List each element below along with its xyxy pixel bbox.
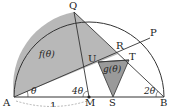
label-P: P bbox=[150, 27, 157, 38]
label-f-theta: f(θ) bbox=[38, 49, 55, 59]
label-B: B bbox=[160, 97, 167, 107]
label-length-AM: 1 bbox=[50, 100, 56, 107]
label-S: S bbox=[109, 97, 116, 107]
angle-arc-A bbox=[27, 91, 28, 97]
region-f-shaded bbox=[13, 12, 118, 97]
geometry-diagram: A B M S Q P R T U f(θ) g(θ) θ 4θ 2θ 1 bbox=[0, 0, 175, 107]
label-U: U bbox=[88, 53, 96, 64]
label-angle-A: θ bbox=[31, 86, 37, 96]
label-T: T bbox=[129, 51, 136, 62]
angle-arc-B bbox=[156, 91, 158, 97]
label-g-theta: g(θ) bbox=[103, 64, 122, 74]
label-M: M bbox=[85, 97, 95, 107]
label-angle-M: 4θ bbox=[71, 86, 84, 96]
label-angle-B: 2θ bbox=[143, 86, 156, 96]
label-Q: Q bbox=[69, 0, 77, 11]
label-A: A bbox=[2, 97, 11, 107]
label-R: R bbox=[116, 40, 124, 51]
